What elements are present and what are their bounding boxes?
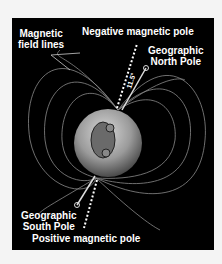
geo-north-label: GeographicNorth Pole [148, 45, 204, 67]
field-lines-label: Magneticfield lines [18, 28, 64, 50]
magnetic-axis-south [84, 180, 97, 228]
positive-pole-label: Positive magnetic pole [32, 233, 140, 244]
negative-pole-label: Negative magnetic pole [82, 26, 194, 37]
geo-south-label: GeographicSouth Pole [21, 210, 77, 232]
